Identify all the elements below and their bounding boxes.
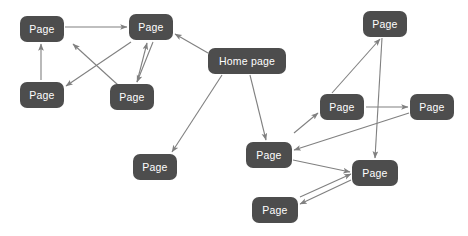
node-label: Home page bbox=[219, 55, 275, 67]
node-page[interactable]: Page bbox=[110, 84, 154, 110]
edge-arrow bbox=[137, 42, 153, 82]
node-label: Page bbox=[372, 18, 397, 30]
node-label: Page bbox=[142, 161, 167, 173]
node-label: Page bbox=[362, 167, 387, 179]
node-label: Page bbox=[29, 23, 54, 35]
edge-arrow bbox=[293, 160, 350, 172]
node-label: Page bbox=[138, 21, 163, 33]
edge-arrow bbox=[66, 42, 131, 86]
edge-arrow bbox=[294, 113, 318, 133]
node-label: Page bbox=[262, 204, 287, 216]
node-page[interactable]: Page bbox=[20, 16, 64, 42]
edge-arrow bbox=[175, 34, 208, 53]
node-page[interactable]: Page bbox=[246, 142, 292, 168]
node-label: Page bbox=[119, 91, 144, 103]
edge-arrow bbox=[332, 39, 380, 93]
node-home-page[interactable]: Home page bbox=[208, 48, 286, 74]
node-page[interactable]: Page bbox=[320, 94, 364, 120]
diagram-canvas: PagePagePagePageHome pagePagePagePagePag… bbox=[0, 0, 468, 236]
node-label: Page bbox=[329, 101, 354, 113]
node-page[interactable]: Page bbox=[352, 160, 398, 186]
edge-arrow bbox=[300, 174, 351, 197]
node-page[interactable]: Page bbox=[129, 14, 173, 40]
node-page[interactable]: Page bbox=[410, 94, 454, 120]
node-label: Page bbox=[256, 149, 281, 161]
node-label: Page bbox=[419, 101, 444, 113]
node-page[interactable]: Page bbox=[363, 11, 407, 37]
edge-arrow bbox=[300, 180, 351, 204]
node-page[interactable]: Page bbox=[252, 197, 298, 223]
edge-arrow bbox=[375, 38, 382, 158]
node-page[interactable]: Page bbox=[20, 82, 64, 108]
edge-arrow bbox=[73, 44, 118, 85]
edge-arrow bbox=[172, 75, 222, 152]
node-label: Page bbox=[29, 89, 54, 101]
edge-arrow bbox=[250, 75, 266, 140]
edge-arrow bbox=[137, 43, 147, 82]
node-page[interactable]: Page bbox=[133, 154, 177, 180]
